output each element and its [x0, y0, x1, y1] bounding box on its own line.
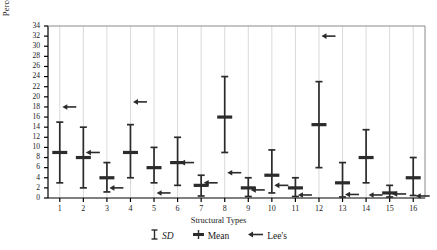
- data-point-group: [406, 158, 430, 199]
- x-tick-label: 4: [120, 204, 140, 213]
- data-point-group: [194, 175, 218, 196]
- y-tick-label: 12: [18, 133, 40, 141]
- x-tick-label: 10: [262, 204, 282, 213]
- x-tick-label: 3: [97, 204, 117, 213]
- lees-arrow-head: [180, 160, 185, 166]
- data-point-group: [123, 99, 147, 178]
- x-tick-label: 11: [285, 204, 305, 213]
- x-tick-label: 9: [238, 204, 258, 213]
- mean-icon: [192, 228, 205, 243]
- x-tick-label: 7: [191, 204, 211, 213]
- lees-arrow-head: [62, 104, 67, 110]
- data-point-group: [241, 178, 265, 197]
- x-tick-label: 12: [309, 204, 329, 213]
- data-point-group: [382, 185, 406, 197]
- y-tick-label: 0: [18, 194, 40, 202]
- x-tick-label: 6: [168, 204, 188, 213]
- y-tick-label: 32: [18, 32, 40, 40]
- data-point-group: [264, 150, 288, 193]
- legend-item-sd: SD: [150, 228, 174, 243]
- x-tick-label: 14: [356, 204, 376, 213]
- x-tick-label: 1: [50, 204, 70, 213]
- y-tick-label: 10: [18, 143, 40, 151]
- data-point-group: [359, 130, 383, 198]
- lees-arrow-head: [86, 150, 91, 156]
- y-tick-label: 24: [18, 72, 40, 80]
- x-tick-label: 2: [73, 204, 93, 213]
- data-point-group: [217, 77, 241, 176]
- y-tick-label: 30: [18, 42, 40, 50]
- sd-icon: [150, 228, 159, 243]
- lees-arrow-icon: [247, 228, 264, 243]
- lees-arrow-head: [227, 170, 232, 176]
- y-tick-label: 18: [18, 103, 40, 111]
- y-tick-label: 20: [18, 93, 40, 101]
- data-point-group: [311, 33, 335, 167]
- chart-figure: Percentage 02468101214161820222426283032…: [0, 0, 437, 250]
- x-axis-title: Structural Types: [0, 215, 437, 225]
- lees-arrow-head: [109, 185, 114, 191]
- y-tick-label: 28: [18, 52, 40, 60]
- y-tick-label: 4: [18, 174, 40, 182]
- lees-arrow-head: [274, 183, 279, 189]
- legend-label-sd: SD: [162, 231, 174, 241]
- y-tick-label: 8: [18, 153, 40, 161]
- y-tick-label: 14: [18, 123, 40, 131]
- legend-item-mean: Mean: [192, 228, 230, 243]
- y-tick-label: 2: [18, 184, 40, 192]
- y-tick-label: 16: [18, 113, 40, 121]
- data-point-group: [170, 137, 194, 185]
- lees-arrow-head: [133, 99, 138, 105]
- lees-arrow-head: [321, 33, 326, 39]
- y-tick-label: 26: [18, 62, 40, 70]
- y-tick-label: 6: [18, 163, 40, 171]
- data-point-group: [288, 178, 312, 198]
- chart-legend: SDMeanLee's: [0, 228, 437, 243]
- legend-item-lees: Lee's: [247, 228, 287, 243]
- legend-label-mean: Mean: [208, 231, 230, 241]
- data-point-group: [99, 163, 123, 192]
- x-tick-label: 13: [333, 204, 353, 213]
- data-point-group: [52, 104, 76, 183]
- x-tick-label: 5: [144, 204, 164, 213]
- lees-arrow-head: [157, 190, 162, 196]
- x-tick-label: 8: [215, 204, 235, 213]
- y-tick-label: 34: [18, 22, 40, 30]
- x-tick-label: 15: [380, 204, 400, 213]
- lees-arrow-head: [369, 192, 374, 198]
- data-point-group: [76, 127, 100, 188]
- data-point-group: [335, 163, 359, 198]
- x-tick-label: 16: [403, 204, 423, 213]
- y-tick-label: 22: [18, 83, 40, 91]
- legend-label-lees: Lee's: [267, 231, 287, 241]
- data-point-group: [147, 147, 171, 195]
